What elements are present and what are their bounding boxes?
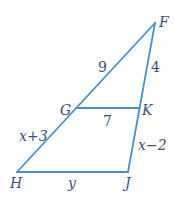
segment-FH — [17, 23, 155, 172]
segment-label-KJ: x−2 — [138, 137, 167, 153]
segment-label-FG: 9 — [98, 59, 107, 75]
vertex-label-J: J — [122, 175, 132, 191]
vertex-label-H: H — [9, 175, 23, 191]
vertex-label-K: K — [141, 102, 154, 118]
segment-label-GH: x+3 — [19, 128, 48, 144]
vertex-label-G: G — [60, 102, 71, 118]
segment-label-GK: 7 — [103, 113, 112, 129]
vertex-label-F: F — [158, 14, 170, 30]
triangle-diagram: F G K H J 9 4 7 x+3 x−2 y — [0, 0, 175, 201]
segment-label-FK: 4 — [151, 59, 160, 75]
segment-label-HJ: y — [67, 175, 77, 191]
